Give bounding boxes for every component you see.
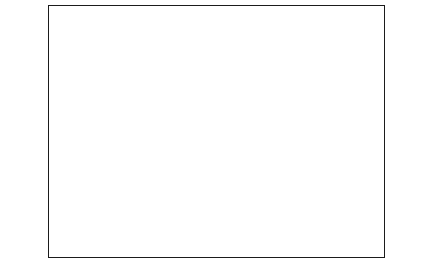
y-axis-tick-labels	[0, 0, 45, 270]
plot-area	[48, 5, 385, 258]
area-chart-svg	[49, 6, 384, 257]
chart-container	[0, 0, 446, 270]
